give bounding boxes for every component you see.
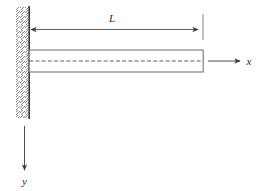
length-label: L <box>108 12 115 24</box>
cantilever-beam-figure: L x y <box>0 0 266 191</box>
diagram-canvas: L x y <box>0 0 266 191</box>
wall-hatching <box>16 7 29 118</box>
y-axis-label: y <box>21 175 27 187</box>
x-axis-label: x <box>246 55 252 67</box>
fixed-support-wall <box>16 6 29 119</box>
length-dimension-L <box>31 14 203 40</box>
